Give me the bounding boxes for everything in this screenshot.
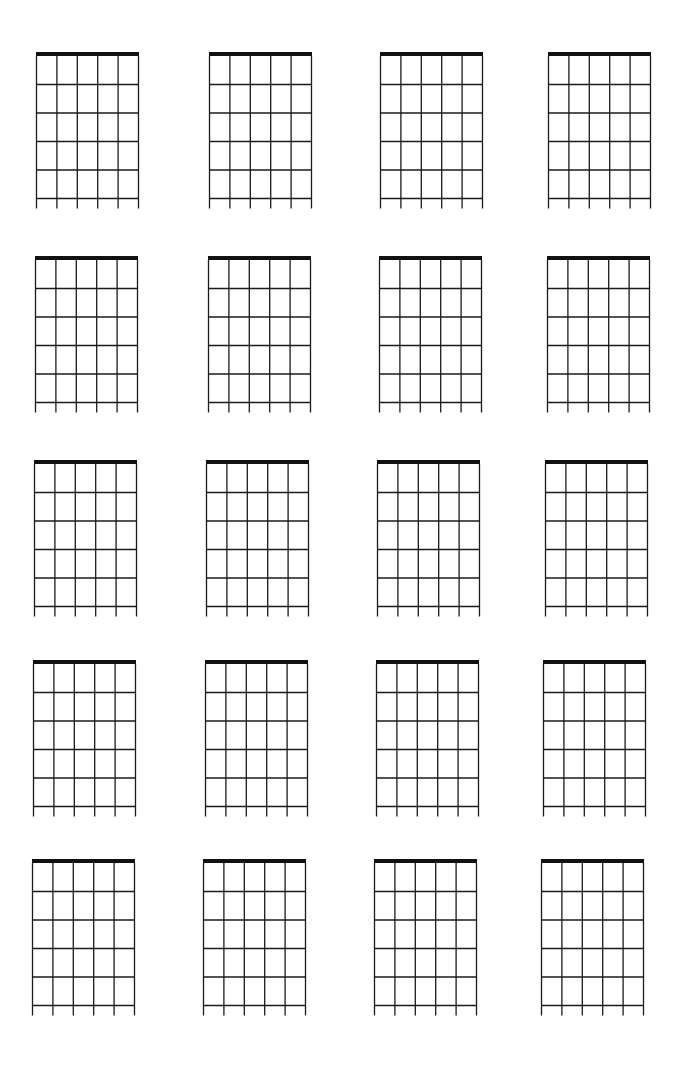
fretboard-grid — [376, 660, 480, 819]
nut — [376, 660, 479, 664]
chord-diagram — [545, 460, 649, 620]
fretboard-grid — [545, 460, 649, 619]
fretboard-grid — [377, 460, 481, 619]
nut — [548, 52, 651, 56]
chord-diagram — [377, 460, 481, 620]
fretboard-grid — [380, 52, 484, 211]
nut — [208, 256, 311, 260]
chord-diagram — [374, 859, 478, 1019]
fretboard-grid — [379, 256, 483, 415]
chord-diagram — [543, 660, 647, 820]
nut — [32, 859, 135, 863]
fretboard-grid — [548, 52, 652, 211]
fretboard-grid — [543, 660, 647, 819]
nut — [35, 256, 138, 260]
nut — [379, 256, 482, 260]
fretboard-grid — [36, 52, 140, 211]
chord-diagram — [206, 460, 310, 620]
chord-diagram — [34, 460, 138, 620]
nut — [34, 460, 137, 464]
fretboard-grid — [35, 256, 139, 415]
nut — [205, 660, 308, 664]
fretboard-grid — [203, 859, 307, 1018]
nut — [377, 460, 480, 464]
nut — [541, 859, 644, 863]
fretboard-grid — [541, 859, 645, 1018]
chord-diagram — [379, 256, 483, 416]
fretboard-grid — [206, 460, 310, 619]
nut — [36, 52, 139, 56]
fretboard-grid — [32, 859, 136, 1018]
nut — [209, 52, 312, 56]
chord-diagram — [205, 660, 309, 820]
chord-diagram — [548, 52, 652, 212]
fretboard-grid — [374, 859, 478, 1018]
chord-diagram — [541, 859, 645, 1019]
chord-diagram — [208, 256, 312, 416]
nut — [374, 859, 477, 863]
nut — [203, 859, 306, 863]
fretboard-grid — [33, 660, 137, 819]
fretboard-grid — [205, 660, 309, 819]
chord-diagram — [547, 256, 651, 416]
chord-diagram — [209, 52, 313, 212]
fretboard-grid — [547, 256, 651, 415]
chord-diagram — [203, 859, 307, 1019]
nut — [380, 52, 483, 56]
chord-diagram — [32, 859, 136, 1019]
fretboard-grid — [209, 52, 313, 211]
nut — [543, 660, 646, 664]
nut — [547, 256, 650, 260]
chord-diagram — [33, 660, 137, 820]
nut — [33, 660, 136, 664]
chord-diagram — [36, 52, 140, 212]
nut — [206, 460, 309, 464]
chord-diagram — [35, 256, 139, 416]
chord-diagram — [380, 52, 484, 212]
fretboard-grid — [208, 256, 312, 415]
fretboard-grid — [34, 460, 138, 619]
nut — [545, 460, 648, 464]
chord-diagram — [376, 660, 480, 820]
